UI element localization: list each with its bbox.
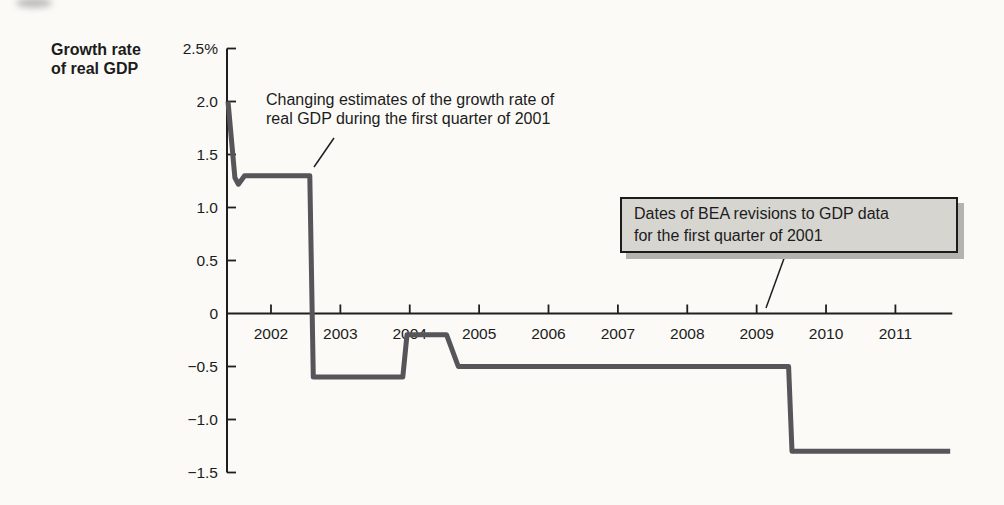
x-tick-label: 2005 [462, 325, 496, 342]
x-tick-label: 2002 [254, 325, 288, 342]
x-tick-label: 2011 [879, 325, 912, 342]
annotation-bea-revisions-box: Dates of BEA revisions to GDP data for t… [620, 197, 958, 253]
gdp-growth-estimate-curve [228, 102, 950, 452]
y-axis-title-line1: Growth rate [51, 40, 141, 59]
y-tick-label: 1.5 [196, 146, 218, 163]
gdp-revisions-figure: 2.5%2.01.51.00.50−0.5−1.0−1.520022003200… [0, 0, 1004, 505]
y-tick-label: 2.0 [196, 93, 218, 110]
annotation-changing-estimates-line2: real GDP during the first quarter of 200… [266, 110, 554, 129]
x-tick-label: 2006 [531, 325, 565, 342]
x-tick-label: 2007 [601, 325, 635, 342]
y-tick-label: 0.5 [196, 252, 218, 269]
x-tick-label: 2003 [323, 325, 357, 342]
annotation-changing-estimates-line1: Changing estimates of the growth rate of [266, 91, 554, 110]
x-tick-label: 2010 [809, 325, 844, 342]
x-tick-label: 2009 [739, 325, 773, 342]
x-tick-label: 2008 [670, 325, 704, 342]
annotation-changing-estimates: Changing estimates of the growth rate of… [266, 91, 554, 128]
bea-revisions-note-leader-line [766, 253, 786, 308]
estimates-note-leader-line [314, 138, 334, 167]
y-tick-label: 0 [209, 305, 218, 322]
annotation-bea-revisions-line1: Dates of BEA revisions to GDP data [634, 203, 956, 225]
annotation-bea-revisions-line2: for the first quarter of 2001 [634, 225, 956, 247]
y-axis-title: Growth rate of real GDP [51, 40, 141, 78]
y-axis-title-line2: of real GDP [51, 59, 141, 78]
y-tick-label: −1.5 [187, 464, 218, 481]
y-tick-label: 1.0 [196, 199, 218, 216]
y-tick-label: 2.5% [183, 40, 219, 57]
y-tick-label: −0.5 [187, 358, 218, 375]
y-tick-label: −1.0 [187, 411, 218, 428]
